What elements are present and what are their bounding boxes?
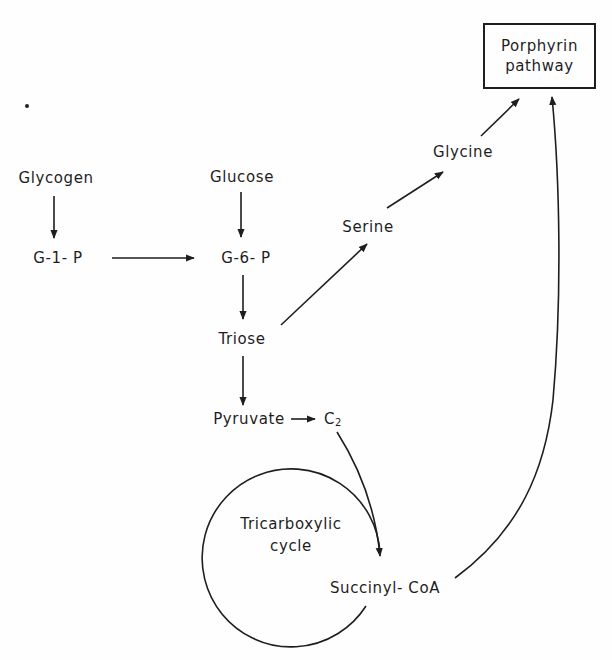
metabolic-pathway-diagram: Porphyrin pathway Glycogen Glucose G-1- … xyxy=(0,0,612,660)
node-g6p: G-6- P xyxy=(221,251,270,266)
node-glycogen: Glycogen xyxy=(18,171,93,186)
node-c2: C2 xyxy=(324,412,342,428)
c2-subscript: 2 xyxy=(335,417,342,428)
node-serine: Serine xyxy=(342,220,393,235)
arrow-serine-to-glycine xyxy=(387,172,443,208)
node-triose: Triose xyxy=(218,332,265,347)
c2-base: C xyxy=(324,410,335,428)
cycle-label-line1: Tricarboxylic xyxy=(240,514,341,536)
node-g1p: G-1- P xyxy=(33,251,82,266)
tricarboxylic-cycle-arc xyxy=(202,469,380,647)
diagram-edges xyxy=(0,0,612,660)
node-glucose: Glucose xyxy=(210,170,274,185)
arrow-c2-to-succinyl-coa xyxy=(337,432,380,556)
arrow-succinyl-coa-to-porphyrin xyxy=(455,97,559,578)
tricarboxylic-cycle-label: Tricarboxylic cycle xyxy=(240,514,341,558)
porphyrin-label-line1: Porphyrin xyxy=(501,36,578,56)
porphyrin-pathway-box: Porphyrin pathway xyxy=(483,23,596,89)
porphyrin-label-line2: pathway xyxy=(505,56,574,76)
arrow-triose-to-serine xyxy=(281,244,367,325)
scan-speck xyxy=(25,104,29,108)
arrow-glycine-to-porphyrin xyxy=(481,99,519,136)
node-succinyl-coa: Succinyl- CoA xyxy=(330,581,440,596)
node-glycine: Glycine xyxy=(433,145,493,160)
cycle-label-line2: cycle xyxy=(240,536,341,558)
node-pyruvate: Pyruvate xyxy=(213,412,285,427)
